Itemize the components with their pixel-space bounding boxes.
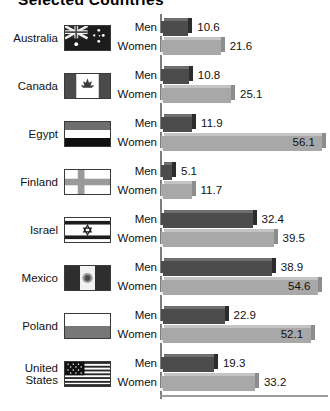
country-label: UnitedStates <box>0 350 58 398</box>
bar-end-cap <box>225 306 229 321</box>
country-label-line: States <box>25 374 58 387</box>
flag-egypt-icon <box>64 121 111 147</box>
country-label-line: United <box>25 362 58 375</box>
flag-israel-icon <box>64 217 111 243</box>
chart-row: Finland Men5.1Women11.7 <box>0 158 330 206</box>
value-label-women: 54.6 <box>288 280 310 292</box>
bar-men <box>161 18 192 36</box>
value-label-women: 21.6 <box>230 40 252 52</box>
chart-row: Mexico Men38.9Women54.6 <box>0 254 330 302</box>
bar-end-cap <box>189 66 193 81</box>
bar-origin-highlight <box>160 244 163 247</box>
bar-women <box>161 85 235 103</box>
bar-origin-highlight <box>160 225 163 228</box>
bar-men <box>161 114 196 132</box>
bar-origin-highlight <box>160 340 163 343</box>
flag-united-states-icon <box>64 361 111 387</box>
country-label: Canada <box>0 62 58 110</box>
bar-front-face <box>161 357 214 372</box>
series-label-men: Men <box>111 357 157 369</box>
series-label-men: Men <box>111 261 157 273</box>
series-label-women: Women <box>111 136 157 148</box>
bar-end-cap <box>192 114 196 129</box>
page-title: Selected Countries <box>18 0 164 9</box>
bar-origin-highlight <box>160 196 163 199</box>
bar-end-cap <box>188 18 192 33</box>
series-label-men: Men <box>111 117 157 129</box>
value-label-women: 56.1 <box>292 136 314 148</box>
bar-front-face <box>161 69 189 84</box>
series-label-men: Men <box>111 213 157 225</box>
bar-men <box>161 306 229 324</box>
bar-origin-highlight <box>160 129 163 132</box>
value-label-men: 22.9 <box>234 309 256 321</box>
value-label-men: 10.6 <box>197 21 219 33</box>
country-label: Egypt <box>0 110 58 158</box>
country-label-line: Mexico <box>22 272 58 285</box>
bar-men <box>161 354 218 372</box>
bar-end-cap <box>318 277 322 292</box>
bar-origin-highlight <box>160 177 163 180</box>
bar-end-cap <box>322 133 326 148</box>
value-label-women: 25.1 <box>240 88 262 100</box>
country-label-line: Finland <box>20 176 58 189</box>
bar-end-cap <box>274 229 278 244</box>
country-label-line: Israel <box>30 224 58 237</box>
bar-end-cap <box>221 37 225 52</box>
chart-row: Israel Men32.4Women39.5 <box>0 206 330 254</box>
bar-front-face <box>161 184 192 199</box>
value-label-men: 32.4 <box>262 213 284 225</box>
flag-poland-icon <box>64 313 111 339</box>
bar-origin-highlight <box>160 52 163 55</box>
series-label-women: Women <box>111 232 157 244</box>
chart-row: Australia Men10.6Women21.6 <box>0 14 330 62</box>
value-label-women: 33.2 <box>264 376 286 388</box>
series-label-women: Women <box>111 328 157 340</box>
bar-front-face <box>161 88 231 103</box>
country-label: Mexico <box>0 254 58 302</box>
value-label-women: 39.5 <box>283 232 305 244</box>
bar-origin-highlight <box>160 369 163 372</box>
country-label: Poland <box>0 302 58 350</box>
series-label-women: Women <box>111 376 157 388</box>
bar-origin-highlight <box>160 321 163 324</box>
value-label-men: 5.1 <box>181 165 197 177</box>
bar-front-face <box>161 213 253 228</box>
country-label: Israel <box>0 206 58 254</box>
flag-canada-icon <box>64 73 111 99</box>
value-label-women: 52.1 <box>281 328 303 340</box>
value-label-men: 11.9 <box>201 117 223 129</box>
flag-australia-icon <box>64 25 111 51</box>
bar-end-cap <box>192 181 196 196</box>
series-label-women: Women <box>111 40 157 52</box>
country-label-line: Australia <box>13 32 58 45</box>
series-label-men: Men <box>111 69 157 81</box>
bar-front-face <box>161 232 274 247</box>
bar-men <box>161 162 176 180</box>
bar-front-face <box>161 376 255 391</box>
bar-men <box>161 258 276 276</box>
series-label-men: Men <box>111 309 157 321</box>
chart-plot-area: Australia Men10.6Women21.6Canada Men10.8… <box>0 10 330 400</box>
bar-origin-highlight <box>160 100 163 103</box>
bar-women <box>161 229 278 247</box>
bar-origin-highlight <box>160 292 163 295</box>
bar-origin-highlight <box>160 33 163 36</box>
series-label-men: Men <box>111 165 157 177</box>
bar-end-cap <box>172 162 176 177</box>
country-label-line: Egypt <box>29 128 58 141</box>
bar-women <box>161 373 259 391</box>
chart-row: Canada Men10.8Women25.1 <box>0 62 330 110</box>
bar-front-face <box>161 117 192 132</box>
country-label-line: Poland <box>22 320 58 333</box>
bar-origin-highlight <box>160 148 163 151</box>
value-label-men: 19.3 <box>223 357 245 369</box>
bar-front-face <box>161 40 221 55</box>
series-label-women: Women <box>111 184 157 196</box>
country-label: Finland <box>0 158 58 206</box>
flag-finland-icon <box>64 169 111 195</box>
bar-origin-highlight <box>160 81 163 84</box>
value-label-men: 10.8 <box>198 69 220 81</box>
bar-end-cap <box>255 373 259 388</box>
bar-end-cap <box>253 210 257 225</box>
